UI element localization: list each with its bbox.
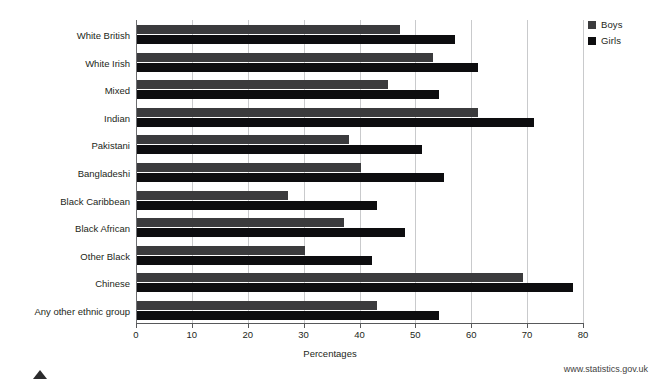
tick-label-80: 80 [578,329,589,340]
bar-girls [137,201,377,210]
bar-girls [137,35,455,44]
tick-label-40: 40 [354,329,365,340]
bar-group: Pakistani [136,130,583,158]
bar-boys [137,53,433,62]
tick-label-0: 0 [133,329,138,340]
bar-girls [137,283,573,292]
bar-group: Any other ethnic group [136,295,583,323]
bar-girls [137,228,405,237]
category-label: Mixed [2,85,130,96]
bar-boys [137,191,288,200]
bar-group: Indian [136,103,583,131]
bar-group: Chinese [136,268,583,296]
bar-girls [137,90,439,99]
tick-label-70: 70 [522,329,533,340]
bar-group: Black African [136,213,583,241]
tick-label-30: 30 [298,329,309,340]
chart-legend: Boys Girls [588,18,658,50]
category-label: Other Black [2,251,130,262]
gridline-80 [583,20,584,323]
tick-70 [527,323,528,328]
category-label: Indian [2,113,130,124]
tick-80 [583,323,584,328]
bar-girls [137,256,372,265]
category-label: White British [2,30,130,41]
tick-20 [248,323,249,328]
bar-group: Black Caribbean [136,185,583,213]
bar-group: White Irish [136,48,583,76]
bar-group: Mixed [136,75,583,103]
tick-label-60: 60 [466,329,477,340]
tick-50 [415,323,416,328]
legend-swatch-boys [588,21,596,29]
bar-chart: Boys Girls 01020304050607080 White Briti… [0,0,660,384]
bar-boys [137,80,388,89]
tick-label-10: 10 [187,329,198,340]
source-url: www.statistics.gov.uk [564,364,648,374]
bar-girls [137,173,444,182]
bar-boys [137,301,377,310]
bar-boys [137,25,400,34]
tick-label-20: 20 [242,329,253,340]
bar-boys [137,218,344,227]
category-label: Black African [2,223,130,234]
tick-60 [471,323,472,328]
tick-40 [360,323,361,328]
bar-boys [137,108,478,117]
category-label: Pakistani [2,140,130,151]
bar-group: Bangladeshi [136,158,583,186]
plot-area: 01020304050607080 White BritishWhite Iri… [136,20,583,323]
tick-10 [192,323,193,328]
bar-girls [137,63,478,72]
category-label: Chinese [2,278,130,289]
bar-boys [137,273,523,282]
category-label: White Irish [2,58,130,69]
bar-boys [137,163,361,172]
bar-girls [137,311,439,320]
category-label: Bangladeshi [2,168,130,179]
tick-0 [136,323,137,328]
legend-item-girls: Girls [588,34,658,48]
bar-group: White British [136,20,583,48]
x-axis-title: Percentages [0,348,660,359]
bar-boys [137,246,305,255]
legend-item-boys: Boys [588,18,658,32]
legend-label-girls: Girls [601,36,621,46]
bar-girls [137,145,422,154]
legend-swatch-girls [588,37,596,45]
category-label: Black Caribbean [2,196,130,207]
bar-group: Other Black [136,240,583,268]
legend-label-boys: Boys [601,20,623,30]
up-arrow-icon [33,370,47,379]
tick-label-50: 50 [410,329,421,340]
tick-30 [304,323,305,328]
category-label: Any other ethnic group [2,306,130,317]
bar-boys [137,135,349,144]
bar-girls [137,118,534,127]
